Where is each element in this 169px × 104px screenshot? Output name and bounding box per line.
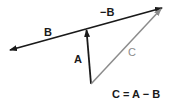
vector-c-arrow (91, 9, 161, 84)
vector-subtraction-diagram: B −B A C C = A − B (0, 0, 169, 104)
equation-label: C = A − B (112, 88, 160, 100)
label-c: C (128, 46, 136, 58)
label-b: B (44, 26, 52, 38)
label-neg-b: −B (100, 6, 114, 18)
vector-a-arrow (87, 30, 92, 84)
vector-neg-b-arrow (86, 8, 162, 29)
label-a: A (74, 53, 82, 65)
